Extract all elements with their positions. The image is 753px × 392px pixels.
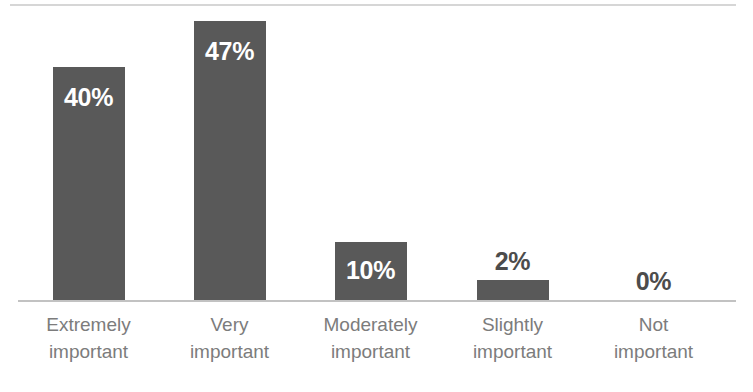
category-label-line2: important — [159, 338, 300, 365]
category-label-line2: important — [583, 338, 724, 365]
category-label-line1: Moderately — [300, 311, 441, 338]
bar-slightly-important: 2% — [477, 280, 549, 300]
bar-group-slightly-important: 2% — [442, 0, 583, 300]
bar-group-moderately-important: 10% — [300, 0, 441, 300]
category-label-line1: Very — [159, 311, 300, 338]
category-label-line2: important — [18, 338, 159, 365]
bar-group-very-important: 47% — [159, 0, 300, 300]
category-label-line2: important — [442, 338, 583, 365]
category-label-not-important: Not important — [583, 311, 724, 365]
bar-value-label: 2% — [495, 249, 531, 274]
category-label-slightly-important: Slightly important — [442, 311, 583, 365]
category-label-line2: important — [300, 338, 441, 365]
bar-very-important: 47% — [194, 21, 266, 300]
category-axis-labels: Extremely important Very important Moder… — [0, 311, 753, 392]
bar-extremely-important: 40% — [53, 67, 125, 300]
category-label-moderately-important: Moderately important — [300, 311, 441, 365]
bar-chart-canvas: 40% 47% 10% 2% 0% — [0, 0, 753, 392]
bar-value-label: 0% — [636, 269, 672, 294]
bar-value-label: 10% — [346, 258, 395, 283]
bar-value-label: 40% — [64, 85, 113, 110]
bar-value-label: 47% — [205, 39, 254, 64]
bar-moderately-important: 10% — [335, 242, 407, 300]
bar-group-not-important: 0% — [583, 0, 724, 300]
category-label-extremely-important: Extremely important — [18, 311, 159, 365]
plot-area: 40% 47% 10% 2% 0% — [0, 0, 753, 300]
category-label-line1: Extremely — [18, 311, 159, 338]
category-label-very-important: Very important — [159, 311, 300, 365]
category-label-line1: Slightly — [442, 311, 583, 338]
category-label-line1: Not — [583, 311, 724, 338]
bar-group-extremely-important: 40% — [18, 0, 159, 300]
category-axis-line — [18, 300, 736, 302]
